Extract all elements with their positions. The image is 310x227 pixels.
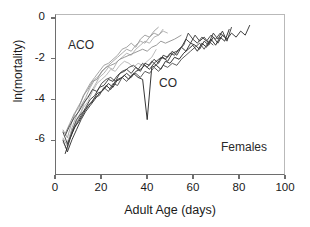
x-tick-label: 60 (178, 181, 208, 193)
x-tick-mark (238, 175, 239, 179)
y-tick-mark (51, 58, 55, 59)
annotation-co: CO (159, 76, 177, 90)
x-tick-mark (146, 175, 147, 179)
x-tick-label: 80 (224, 181, 254, 193)
y-tick-mark (51, 17, 55, 18)
y-tick-mark (51, 140, 55, 141)
figure: 0-2-4-6 020406080100 ln(mortality) Adult… (0, 0, 310, 227)
x-tick-label: 40 (132, 181, 162, 193)
x-tick-label: 0 (40, 181, 70, 193)
y-axis-label: ln(mortality) (11, 1, 25, 141)
x-tick-mark (100, 175, 101, 179)
series-line (67, 41, 213, 146)
y-tick-mark (51, 99, 55, 100)
annotation-females: Females (221, 140, 267, 154)
annotation-aco: ACO (68, 38, 94, 52)
x-tick-label: 100 (270, 181, 300, 193)
x-axis-label: Adult Age (days) (55, 203, 285, 217)
x-tick-label: 20 (86, 181, 116, 193)
x-tick-mark (54, 175, 55, 179)
x-tick-mark (192, 175, 193, 179)
x-tick-mark (284, 175, 285, 179)
